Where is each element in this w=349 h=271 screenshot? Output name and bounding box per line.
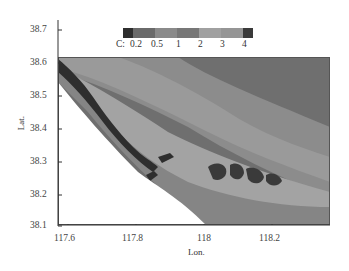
y-tick-label: 38.5	[30, 90, 47, 100]
legend-label: 4	[242, 39, 247, 49]
plot-area	[58, 57, 330, 225]
legend-label: 2	[198, 39, 203, 49]
x-tick-label: 118.2	[259, 233, 280, 243]
legend-swatch	[199, 28, 221, 38]
legend-label: 3	[220, 39, 225, 49]
y-tick-label: 38.7	[30, 24, 47, 34]
legend-swatch	[133, 28, 155, 38]
legend-label: 0.2	[130, 39, 142, 49]
x-tick-label: 118	[197, 233, 211, 243]
x-axis	[58, 224, 330, 230]
legend-swatch	[221, 28, 243, 38]
y-tick-label: 38.1	[30, 220, 47, 230]
contour-map	[58, 57, 330, 225]
legend-prefix: C:	[116, 39, 125, 49]
y-tick-label: 38.2	[30, 189, 47, 199]
y-axis-title: Lat.	[16, 116, 26, 130]
y-tick-label: 38.3	[30, 156, 47, 166]
legend-swatch	[155, 28, 177, 38]
legend-swatch	[243, 28, 253, 38]
legend-label: 0.5	[151, 39, 163, 49]
y-tick-label: 38.4	[30, 123, 47, 133]
x-axis-title: Lon.	[188, 247, 205, 257]
y-tick-label: 38.6	[30, 57, 47, 67]
legend-swatch	[177, 28, 199, 38]
x-tick-label: 117.6	[54, 233, 75, 243]
legend-label: 1	[176, 39, 181, 49]
legend-swatch	[123, 28, 133, 38]
legend: C: 0.2 0.5 1 2 3 4	[120, 28, 260, 54]
x-tick-label: 117.8	[122, 233, 143, 243]
y-axis	[50, 20, 62, 230]
